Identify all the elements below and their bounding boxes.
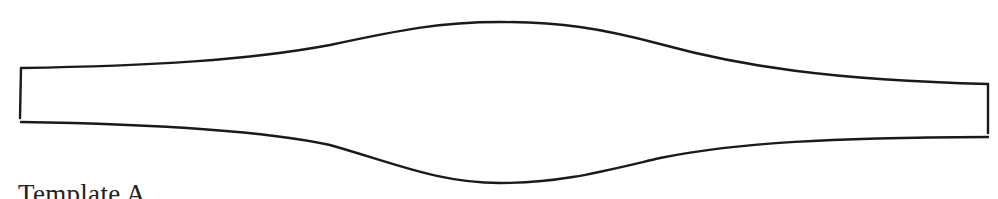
top-curve bbox=[21, 22, 988, 84]
template-outline bbox=[0, 0, 998, 199]
bottom-curve bbox=[21, 122, 988, 183]
template-caption: Template A bbox=[18, 181, 146, 199]
left-edge bbox=[20, 68, 21, 118]
